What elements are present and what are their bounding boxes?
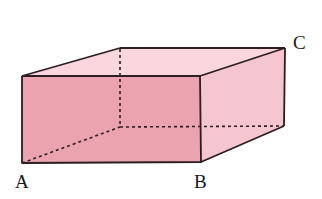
label-a: A bbox=[15, 171, 29, 192]
rectangular-prism-diagram: A B C bbox=[0, 0, 322, 199]
front-face bbox=[22, 76, 201, 163]
label-c: C bbox=[293, 32, 306, 53]
back-right-vertical-edge bbox=[284, 48, 285, 126]
label-b: B bbox=[194, 171, 207, 192]
prism-svg: A B C bbox=[0, 0, 322, 199]
